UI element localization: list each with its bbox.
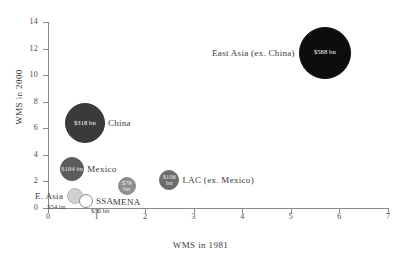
- bubble-value: $588 bn: [314, 49, 336, 56]
- bubble-label: E. Asia: [35, 191, 63, 201]
- bubble-value-external: $30 bn: [91, 207, 109, 214]
- bubble-label: LAC (ex. Mexico): [182, 175, 254, 185]
- bubble-china[interactable]: $318 bn: [65, 103, 105, 143]
- y-tick-label: 2: [0, 176, 38, 185]
- bubble-value: $184 bn: [61, 166, 83, 173]
- x-tick-label: 0: [38, 212, 58, 221]
- y-axis-title: WMS in 2000: [14, 42, 24, 152]
- bubble-label: Mexico: [87, 164, 116, 174]
- bubble-label: SSA: [96, 196, 113, 206]
- x-tick-label: 5: [281, 212, 301, 221]
- bubble-mena[interactable]: $79 bn: [118, 177, 136, 195]
- x-tick-label: 3: [184, 212, 204, 221]
- bubble-label: China: [108, 118, 131, 128]
- bubble-value: $106 bn: [163, 174, 176, 187]
- y-tick-label: 0: [0, 203, 38, 212]
- bubble-label: East Asia (ex. China): [212, 48, 295, 58]
- bubble-value: $318 bn: [74, 120, 96, 127]
- bubble-mexico[interactable]: $184 bn: [60, 157, 84, 181]
- bubble-value-external: $54 bn: [47, 203, 65, 210]
- bubble-value: $79 bn: [122, 180, 132, 193]
- bubble-label: MENA: [113, 197, 141, 207]
- x-tick-label: 6: [329, 212, 349, 221]
- x-tick-label: 4: [232, 212, 252, 221]
- bubble-east-asia-ex-china[interactable]: $588 bn: [299, 27, 351, 79]
- x-tick-label: 2: [135, 212, 155, 221]
- bubble-lac-ex-mexico[interactable]: $106 bn: [159, 170, 179, 190]
- x-tick-label: 7: [378, 212, 398, 221]
- bubble-ssa[interactable]: [79, 194, 93, 208]
- y-tick-label: 14: [0, 17, 38, 26]
- bubble-chart: 02468101214 01234567 WMS in 2000 WMS in …: [0, 0, 401, 268]
- x-axis-title: WMS in 1981: [0, 240, 401, 250]
